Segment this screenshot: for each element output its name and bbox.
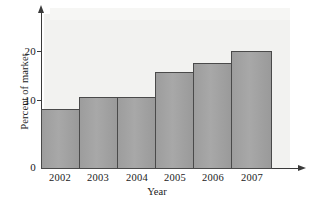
y-axis-title: Percent of market — [19, 32, 30, 152]
bar-2005 — [155, 72, 194, 169]
x-tick-label-2007: 2007 — [232, 172, 272, 183]
x-tick-label-2006: 2006 — [193, 172, 233, 183]
y-tick-mark-10 — [37, 100, 42, 101]
bar-2003 — [79, 97, 118, 169]
x-axis-title: Year — [41, 186, 273, 197]
x-tick-label-2003: 2003 — [78, 172, 118, 183]
bar-chart-figure: 20 10 0 2002 2003 2004 2005 2006 2007 Pe… — [0, 0, 315, 207]
x-tick-label-2002: 2002 — [40, 172, 80, 183]
bar-2006 — [193, 63, 232, 169]
x-tick-label-2005: 2005 — [155, 172, 195, 183]
y-axis-arrow-icon — [38, 5, 44, 13]
bar-2002 — [41, 109, 80, 169]
x-tick-label-2004: 2004 — [117, 172, 157, 183]
x-axis-arrow-icon — [298, 165, 306, 171]
y-tick-label-0: 0 — [0, 162, 36, 173]
bar-2004 — [117, 97, 156, 169]
plot-background-upper — [50, 8, 290, 20]
bar-2007 — [231, 51, 272, 169]
y-tick-mark-20 — [37, 51, 42, 52]
